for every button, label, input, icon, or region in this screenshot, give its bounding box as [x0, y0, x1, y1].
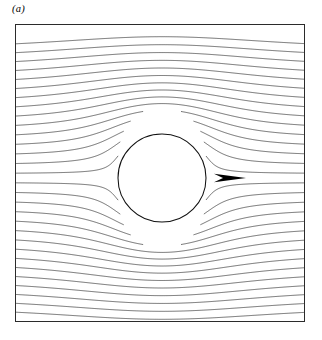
- streamline: [15, 240, 305, 259]
- streamline: [15, 231, 305, 253]
- streamline: [15, 312, 305, 319]
- streamline: [15, 97, 305, 116]
- streamline: [15, 90, 305, 107]
- streamline: [15, 285, 305, 295]
- plot-area: [15, 24, 305, 322]
- streamline: [15, 37, 305, 44]
- streamline: [15, 104, 305, 126]
- streamline: [15, 276, 305, 288]
- streamline-plot: [15, 24, 305, 322]
- flow-direction-arrow-icon: [214, 174, 246, 183]
- streamline: [15, 60, 305, 70]
- figure-container: (a): [0, 0, 322, 340]
- streamline: [15, 112, 305, 135]
- streamline: [15, 249, 305, 266]
- streamline: [15, 267, 305, 280]
- streamline: [15, 76, 305, 89]
- streamline: [15, 303, 305, 311]
- streamline: [15, 221, 305, 244]
- streamline: [15, 45, 305, 53]
- streamline: [15, 68, 305, 80]
- panel-label: (a): [12, 2, 25, 16]
